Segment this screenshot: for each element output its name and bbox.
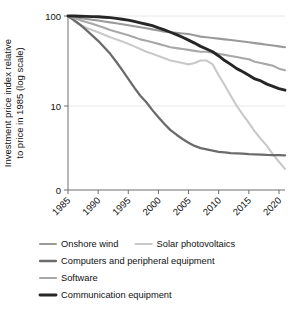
y-axis-title-line-1: Investment price index relative bbox=[2, 39, 13, 167]
legend-item-computers-and-peripheral-equipment[interactable]: Computers and peripheral equipment bbox=[40, 256, 215, 266]
legend-label-solar-photovoltaics: Solar photovoltaics bbox=[157, 239, 236, 249]
x-tick-label-2010: 2010 bbox=[200, 195, 223, 218]
series-line-solar-photovoltaics bbox=[68, 16, 285, 169]
chart-container: 100100 19851990199520002005201020152020 … bbox=[0, 0, 292, 312]
x-tick-label-2020: 2020 bbox=[261, 195, 284, 218]
y-tick-label-100: 100 bbox=[45, 11, 61, 22]
x-tick-label-2015: 2015 bbox=[230, 195, 253, 218]
series-lines bbox=[68, 16, 285, 169]
legend-item-solar-photovoltaics[interactable]: Solar photovoltaics bbox=[136, 239, 236, 249]
x-tick-label-1985: 1985 bbox=[50, 195, 73, 218]
legend-label-communication-equipment: Communication equipment bbox=[61, 290, 172, 300]
x-axis-tick-labels: 19851990199520002005201020152020 bbox=[50, 195, 284, 218]
legend-item-communication-equipment[interactable]: Communication equipment bbox=[40, 290, 172, 300]
series-line-computers-and-peripheral-equipment bbox=[68, 16, 285, 155]
legend-item-software[interactable]: Software bbox=[40, 273, 98, 283]
legend-label-onshore-wind: Onshore wind bbox=[61, 239, 118, 249]
x-tick-label-2000: 2000 bbox=[140, 195, 163, 218]
investment-price-index-line-chart: 100100 19851990199520002005201020152020 … bbox=[0, 0, 292, 312]
y-axis-tick-labels: 100100 bbox=[45, 11, 61, 196]
legend-label-software: Software bbox=[61, 273, 98, 283]
y-tick-label-10: 10 bbox=[50, 101, 61, 112]
x-tick-label-1990: 1990 bbox=[80, 195, 103, 218]
y-tick-label-0: 0 bbox=[56, 185, 61, 196]
y-axis-title: Investment price index relativeto price … bbox=[2, 39, 25, 167]
y-axis-title-line-2: to price in 1985 (log scale) bbox=[14, 47, 25, 158]
chart-legend: Onshore windSolar photovoltaicsComputers… bbox=[40, 239, 236, 300]
legend-label-computers-and-peripheral-equipment: Computers and peripheral equipment bbox=[61, 256, 215, 266]
x-tick-label-2005: 2005 bbox=[170, 195, 193, 218]
legend-item-onshore-wind[interactable]: Onshore wind bbox=[40, 239, 118, 249]
x-tick-label-1995: 1995 bbox=[110, 195, 133, 218]
